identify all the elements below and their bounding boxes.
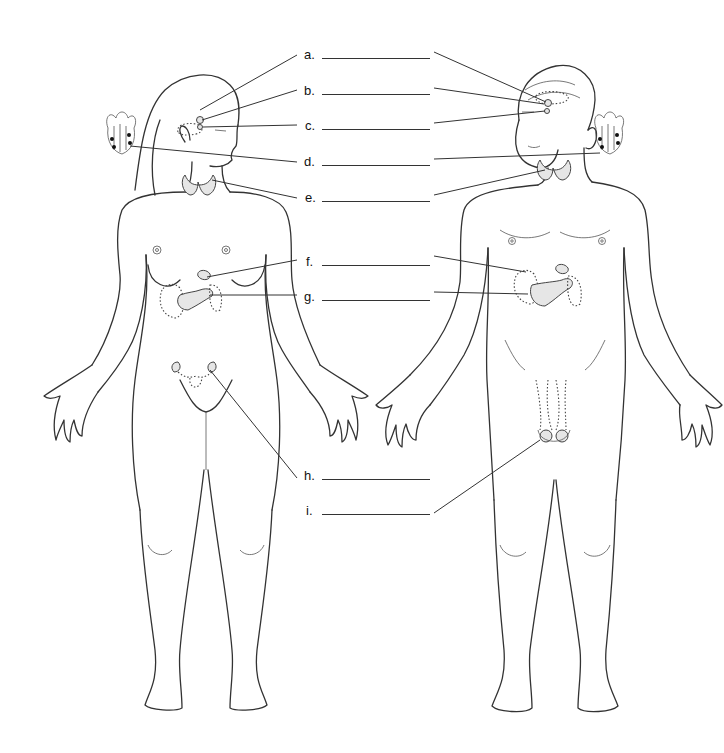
answer-blank-h[interactable] xyxy=(322,479,430,480)
answer-blank-i[interactable] xyxy=(322,514,430,515)
answer-blank-a[interactable] xyxy=(322,58,430,59)
label-letter-h: h. xyxy=(304,468,315,483)
answer-blank-b[interactable] xyxy=(322,94,430,95)
label-letter-g: g. xyxy=(304,289,315,304)
answer-blank-e[interactable] xyxy=(322,201,430,202)
male-figure xyxy=(376,65,722,711)
answer-blank-d[interactable] xyxy=(322,165,430,166)
label-letter-f: f. xyxy=(306,254,313,269)
diagram-canvas xyxy=(0,0,724,753)
female-figure xyxy=(44,75,368,710)
label-letter-e: e. xyxy=(305,190,316,205)
parathyroid-inset-left xyxy=(107,112,136,154)
label-letter-a: a. xyxy=(304,47,315,62)
label-letter-c: c. xyxy=(305,118,315,133)
label-letter-i: i. xyxy=(306,503,313,518)
answer-blank-g[interactable] xyxy=(322,300,430,301)
label-letter-d: d. xyxy=(304,154,315,169)
parathyroid-inset-right xyxy=(595,112,624,154)
label-letter-b: b. xyxy=(304,83,315,98)
answer-blank-c[interactable] xyxy=(322,129,430,130)
answer-blank-f[interactable] xyxy=(322,265,430,266)
